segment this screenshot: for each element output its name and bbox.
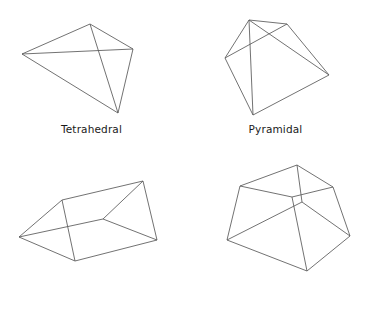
edge-bottom-left-back bbox=[227, 202, 302, 240]
element-shapes-figure: Tetrahedral Pyramidal bbox=[0, 0, 367, 312]
edge-bottom-back-right bbox=[302, 202, 350, 236]
edge-left-backtop bbox=[225, 24, 287, 58]
edge-apex-left bbox=[22, 24, 90, 54]
caption-tetrahedral: Tetrahedral bbox=[0, 123, 183, 135]
edge-right-bottom bbox=[118, 49, 133, 113]
edge-front-right bbox=[253, 75, 329, 115]
edge-inner-rightback bbox=[103, 219, 157, 240]
edge-top-left-center bbox=[240, 186, 292, 197]
edge-top-right-center bbox=[292, 187, 333, 197]
edge-front-rightback bbox=[75, 240, 157, 261]
edge-ridgefar-inner bbox=[103, 181, 143, 219]
edge-left-front bbox=[225, 58, 253, 115]
prismatic-wireframe bbox=[0, 156, 183, 312]
edge-left-inner bbox=[19, 219, 103, 237]
edge-side-back bbox=[297, 165, 302, 202]
edge-ridgefar-rightback bbox=[143, 181, 157, 240]
edge-ridge bbox=[62, 181, 143, 200]
edge-left-bottom bbox=[22, 54, 118, 113]
edge-side-left bbox=[227, 186, 240, 240]
caption-pyramidal: Pyramidal bbox=[184, 123, 367, 135]
hexahedral-wireframe bbox=[184, 156, 367, 312]
edge-apex-left bbox=[225, 20, 249, 58]
edge-apex-backtop bbox=[249, 20, 287, 24]
edge-bottom-left-front bbox=[227, 240, 307, 271]
edge-ridgenear-left bbox=[19, 200, 62, 237]
edge-bottom-front-right bbox=[307, 236, 350, 271]
panel-pyramidal: Pyramidal bbox=[184, 0, 367, 156]
panel-tetrahedral: Tetrahedral bbox=[0, 0, 183, 156]
panel-hexahedral: Hexahedral bbox=[184, 156, 367, 312]
edge-apex-right bbox=[249, 20, 329, 75]
edge-backtop-right bbox=[287, 24, 329, 75]
edge-side-right bbox=[333, 187, 350, 236]
edge-apex-front bbox=[249, 20, 253, 115]
edge-side-front bbox=[292, 197, 307, 271]
panel-prismatic: Prismatic bbox=[0, 156, 183, 312]
edge-left-right bbox=[22, 49, 133, 54]
edge-top-back-right bbox=[297, 165, 333, 187]
edge-left-front bbox=[19, 237, 75, 261]
edge-top-back-left bbox=[240, 165, 297, 186]
edge-ridgenear-front bbox=[62, 200, 75, 261]
